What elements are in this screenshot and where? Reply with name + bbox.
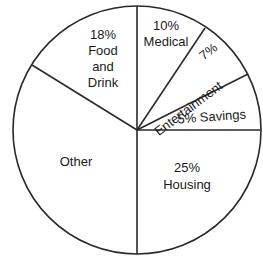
medical-pct-label: 10% [153, 18, 179, 33]
other-label: Other [60, 154, 93, 169]
food-label-line1: Food [88, 43, 118, 58]
housing-label: Housing [163, 177, 211, 192]
housing-pct-label: 25% [174, 160, 200, 175]
food-label-line3: Drink [88, 75, 119, 90]
food-label-line2: and [92, 59, 114, 74]
medical-label: Medical [144, 34, 189, 49]
pie-chart: 10% Medical Entertainment 7% 5% Savings … [0, 0, 263, 269]
food-pct-label: 18% [90, 27, 116, 42]
